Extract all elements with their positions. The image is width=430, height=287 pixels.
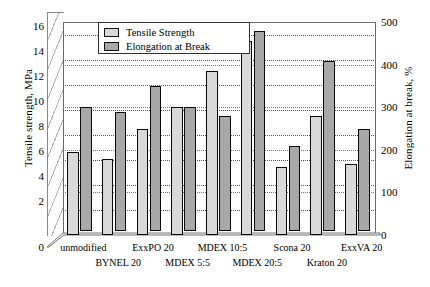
chart-legend: Tensile Strength Elongation at Break [98, 22, 250, 54]
category-label: Scona 20 [274, 242, 311, 253]
x-axis-category-labels: unmodifiedBYNEL 20ExxPO 20MDEX 5:5MDEX 1… [0, 236, 430, 280]
elongation-swatch [104, 42, 119, 51]
bar-group [341, 22, 376, 235]
category-label: ExxPO 20 [132, 242, 173, 253]
right-tick-label: 100 [381, 187, 398, 198]
bar-tensile [137, 129, 149, 236]
left-tick-label: 2 [4, 196, 44, 207]
bar-elongation [323, 61, 335, 231]
category-label: BYNEL 20 [95, 257, 140, 268]
bar-elongation [219, 116, 231, 231]
bar-elongation [254, 31, 266, 231]
bar-elongation [358, 129, 370, 231]
bar-tensile [171, 107, 183, 235]
legend-item-tensile: Tensile Strength [104, 26, 244, 39]
bar-tensile [345, 164, 357, 235]
legend-label-tensile: Tensile Strength [126, 27, 194, 38]
legend-item-elongation: Elongation at Break [104, 40, 244, 53]
bar-tensile [276, 167, 288, 235]
tensile-swatch [104, 28, 119, 37]
bar-elongation [184, 107, 196, 231]
bar-chart: 1614121086420 5004003002001000 Tensile s… [0, 0, 430, 287]
category-label: Kraton 20 [307, 257, 347, 268]
right-tick-label: 200 [381, 145, 398, 156]
category-label: MDEX 5:5 [165, 257, 210, 268]
bar-elongation [115, 112, 127, 231]
right-tick-label: 300 [381, 102, 398, 113]
y-axis-right-title: Elongation at break, % [402, 43, 414, 193]
right-tick-label: 400 [381, 60, 398, 71]
bar-elongation [289, 146, 301, 231]
bar-tensile [102, 159, 114, 235]
left-tick-label: 16 [4, 21, 44, 32]
legend-label-elongation: Elongation at Break [126, 41, 210, 52]
bar-group [272, 22, 307, 235]
y-axis-left-title: Tensile strength, MPa [22, 43, 34, 193]
bar-group [63, 22, 98, 235]
bar-group [306, 22, 341, 235]
bar-elongation [80, 107, 92, 231]
bar-tensile [67, 152, 79, 235]
category-label: MDEX 10:5 [198, 242, 248, 253]
bar-tensile [206, 71, 218, 235]
bar-tensile [310, 116, 322, 235]
bar-elongation [150, 86, 162, 231]
chart-left-wall-hatch [47, 12, 64, 236]
category-label: ExxVA 20 [341, 242, 382, 253]
right-tick-label: 500 [381, 17, 398, 28]
category-label: MDEX 20:5 [232, 257, 282, 268]
category-label: unmodified [60, 242, 106, 253]
bar-tensile [241, 41, 253, 235]
